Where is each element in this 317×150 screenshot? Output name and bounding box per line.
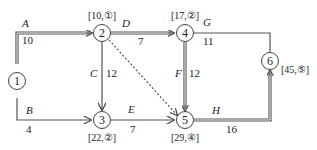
edge-e: E 7 — [111, 103, 174, 135]
node-3: 3 [22,②] — [88, 112, 116, 144]
edge-a-name: A — [21, 17, 29, 29]
edge-b: B 4 — [17, 98, 91, 135]
node-1-label: 1 — [14, 74, 20, 88]
edge-e-duration: 7 — [130, 123, 136, 135]
edge-f-duration: 12 — [189, 67, 200, 79]
edge-h-duration: 16 — [226, 123, 238, 135]
edge-g-name: G — [203, 16, 211, 28]
edge-d-duration: 7 — [138, 35, 144, 47]
edge-dummy — [109, 40, 177, 115]
edge-c: C 12 — [90, 42, 117, 110]
node-5-annotation: [29,④] — [171, 132, 199, 143]
node-6-label: 6 — [267, 54, 273, 68]
edge-b-name: B — [26, 104, 33, 116]
edge-d-name: D — [121, 17, 130, 29]
edge-d: D 7 — [111, 17, 174, 47]
node-4-annotation: [17,②] — [171, 10, 199, 21]
edge-f-name: F — [174, 67, 182, 79]
node-3-label: 3 — [99, 113, 105, 127]
node-6: 6 [45,⑤] — [262, 53, 310, 76]
edge-a: A 10 — [17, 17, 92, 64]
node-3-annotation: [22,②] — [88, 132, 116, 143]
node-2-label: 2 — [99, 26, 105, 40]
network-diagram: A 10 B 4 C 12 D 7 E 7 F 12 — [0, 0, 317, 150]
node-5-label: 5 — [182, 113, 188, 127]
node-4: 4 [17,②] — [171, 10, 199, 42]
node-2: 2 [10,①] — [88, 10, 116, 42]
edge-c-duration: 12 — [106, 67, 117, 79]
node-6-annotation: [45,⑤] — [281, 64, 309, 75]
edge-a-duration: 10 — [22, 34, 34, 46]
edge-h-name: H — [211, 104, 221, 116]
edge-h: H 16 — [194, 70, 270, 135]
node-1: 1 — [9, 73, 26, 90]
edge-b-duration: 4 — [26, 123, 32, 135]
node-4-label: 4 — [182, 26, 188, 40]
node-5: 5 [29,④] — [171, 112, 199, 144]
node-2-annotation: [10,①] — [88, 10, 116, 21]
edge-f: F 12 — [174, 42, 200, 111]
edge-g-duration: 11 — [203, 35, 214, 47]
edge-c-name: C — [90, 67, 98, 79]
edge-g: G 11 — [194, 16, 270, 52]
edge-e-name: E — [127, 103, 135, 115]
